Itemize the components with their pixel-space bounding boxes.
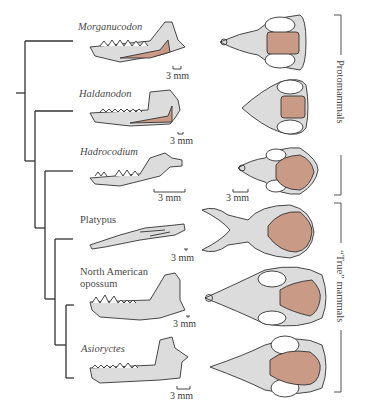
skull-morganucodon (220, 15, 306, 70)
cladogram-figure (0, 0, 371, 417)
taxon-label-platypus: Platypus (80, 214, 116, 226)
jaw-platypus (90, 224, 185, 249)
scale-label-asioryctes: 3 mm (170, 390, 193, 401)
scale-label-hadrocodium-skull: 3 mm (226, 192, 249, 203)
skull-platypus (202, 205, 314, 258)
cladogram-tree (16, 41, 74, 378)
skull-haldanodon (242, 80, 308, 135)
taxon-label-asioryctes: Asioryctes (81, 343, 125, 355)
group-label-protomammals: Protomammals (335, 60, 346, 124)
taxon-label-hadrocodium: Hadrocodium (80, 146, 138, 158)
scale-label-haldanodon: 3 mm (170, 135, 193, 146)
group-label-true-mammals: “True” mammals (335, 250, 346, 322)
scale-label-hadrocodium-jaw: 3 mm (158, 192, 181, 203)
taxon-label-morganucodon: Morganucodon (78, 21, 142, 33)
scale-label-opossum: 3 mm (173, 318, 196, 329)
skull-opossum (205, 267, 326, 326)
taxon-label-opossum-line2: opossum (80, 278, 117, 290)
scale-label-platypus: 3 mm (171, 252, 194, 263)
skull-hadrocodium (238, 148, 318, 195)
skull-asioryctes (210, 336, 326, 397)
taxon-label-haldanodon: Haldanodon (79, 88, 132, 100)
scale-label-morganucodon: 3 mm (166, 70, 189, 81)
taxon-label-opossum-line1: North American (80, 266, 148, 278)
